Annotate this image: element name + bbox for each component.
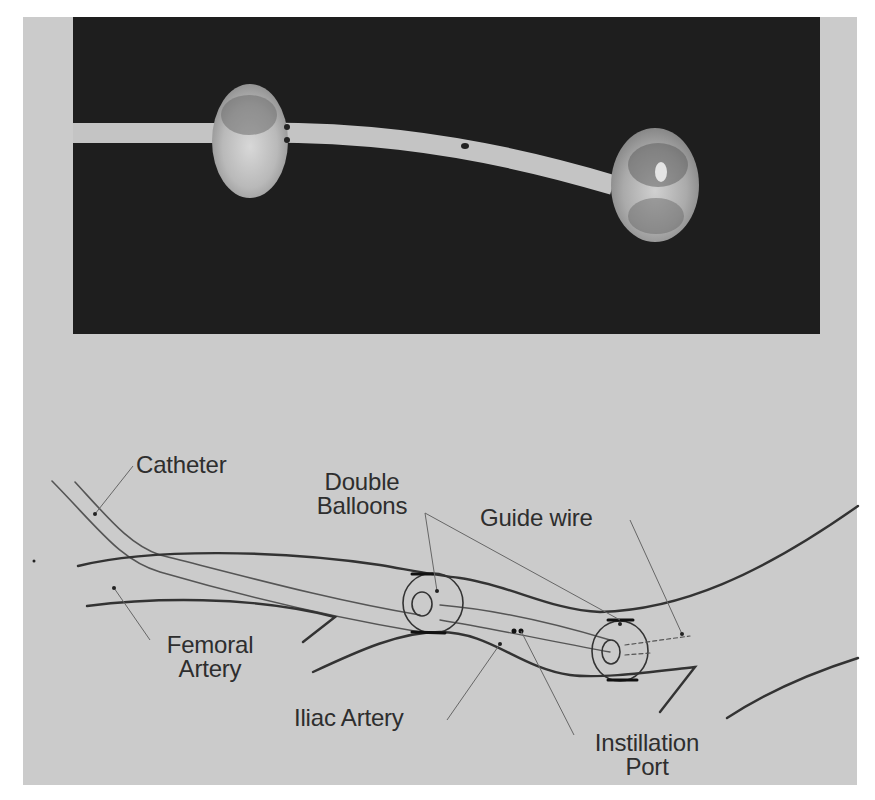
leader-instillation (521, 631, 574, 735)
label-double-balloons: Double Balloons (297, 470, 427, 518)
label-guide-wire: Guide wire (480, 506, 593, 530)
label-instillation-line1: Instillation (572, 731, 722, 755)
label-instillation-port: Instillation Port (572, 731, 722, 779)
guide-wire (625, 636, 690, 645)
label-double-balloons-line1: Double (297, 470, 427, 494)
label-femoral-line1: Femoral (145, 633, 275, 657)
leader-balloon-left (425, 513, 437, 591)
leader-catheter (95, 466, 133, 514)
artery-upper-wall (78, 506, 858, 612)
label-femoral-line2: Artery (145, 657, 275, 681)
label-iliac-artery: Iliac Artery (294, 706, 404, 730)
label-double-balloons-line2: Balloons (297, 494, 427, 518)
label-catheter: Catheter (136, 453, 226, 477)
label-instillation-line2: Port (572, 755, 722, 779)
anatomy-diagram (0, 0, 875, 800)
leader-iliac (447, 644, 500, 720)
iliac-lower-wall (313, 632, 695, 712)
label-femoral-artery: Femoral Artery (145, 633, 275, 681)
leader-guide-wire (630, 520, 682, 634)
